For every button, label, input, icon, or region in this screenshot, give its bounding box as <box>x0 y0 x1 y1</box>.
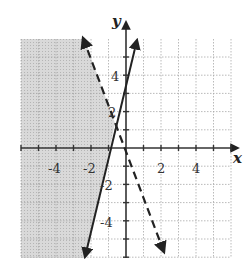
x-axis-label: x <box>232 149 243 167</box>
y-tick-label: 4 <box>111 69 119 84</box>
y-tick-label: -4 <box>100 215 113 230</box>
x-tick-label: -2 <box>83 161 96 176</box>
x-tick-label: 4 <box>192 161 200 176</box>
x-tick-label: -4 <box>48 161 61 176</box>
x-tick-label: 2 <box>157 161 165 176</box>
y-tick-label: -2 <box>100 178 113 193</box>
y-axis-label: y <box>111 12 122 30</box>
y-tick-label: 2 <box>108 105 116 120</box>
inequality-graph: -4 -2 2 4 4 2 -2 -4 x y <box>0 0 251 273</box>
graph-canvas: -4 -2 2 4 4 2 -2 -4 x y <box>0 0 251 273</box>
